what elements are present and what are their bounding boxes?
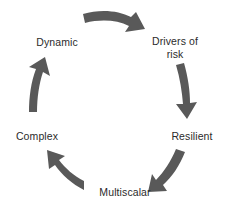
arrow-complex-to-dynamic-icon (29, 57, 50, 112)
arrow-multiscalar-to-complex-icon (47, 150, 84, 190)
node-label-drivers-of-risk: Drivers of risk (142, 35, 208, 60)
node-label-multiscalar: Multiscalar (86, 186, 164, 199)
arrow-drivers-to-resilient-icon (176, 63, 197, 119)
arrow-dynamic-to-drivers-icon (83, 11, 145, 32)
cycle-diagram: Dynamic Drivers of risk Resilient Multis… (0, 0, 228, 219)
node-label-complex: Complex (4, 130, 70, 143)
node-label-dynamic: Dynamic (24, 36, 90, 49)
node-label-resilient: Resilient (160, 130, 224, 143)
